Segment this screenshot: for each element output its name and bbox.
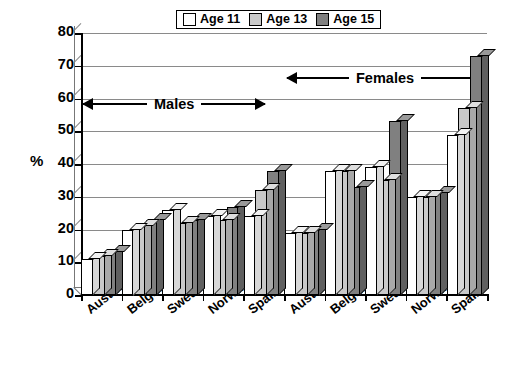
- y-axis-line: [81, 33, 83, 295]
- bar-front-face: [162, 210, 174, 295]
- bar-side-face: [319, 223, 326, 296]
- annotation-males: Males: [83, 95, 265, 113]
- bar-side-face: [360, 180, 367, 295]
- x-tick-mark: [162, 294, 164, 301]
- bar-side-face: [429, 190, 436, 295]
- arrow-left-females: [287, 77, 349, 79]
- annotation-label-females: Females: [349, 70, 421, 86]
- bar-side-face: [198, 213, 205, 295]
- y-tick-label: 10: [40, 253, 74, 268]
- bar-age-11-sweden-males: [162, 210, 174, 295]
- bar-side-face: [116, 245, 123, 295]
- bar-side-face: [174, 203, 181, 295]
- bar-side-face: [133, 223, 140, 296]
- y-tick-label: 30: [40, 188, 74, 203]
- arrow-left-males: [83, 103, 147, 105]
- y-tick-label: 60: [40, 90, 74, 105]
- y-tick-label: 20: [40, 221, 74, 236]
- gridline: [81, 66, 487, 67]
- bar-side-face: [296, 226, 303, 295]
- bar-age-11-austria-males: [81, 259, 93, 295]
- bar-side-face: [255, 209, 262, 295]
- bar-side-face: [308, 226, 315, 295]
- dark-gray-square-icon: [316, 13, 329, 26]
- bar-front-face: [122, 230, 134, 296]
- bar-side-face: [389, 173, 396, 295]
- bar-top-face: [234, 200, 253, 207]
- bar-side-face: [336, 164, 343, 295]
- bar-side-face: [401, 114, 408, 295]
- bar-chart: Age 11 Age 13 Age 15 % 80706050403020100…: [0, 0, 511, 368]
- arrow-head-right-icon: [255, 98, 266, 110]
- arrow-head-left-icon: [286, 72, 297, 84]
- light-gray-square-icon: [249, 13, 262, 26]
- legend-item-age-15: Age 15: [316, 13, 374, 26]
- x-tick-mark: [325, 294, 327, 301]
- legend-label-age-13: Age 13: [266, 13, 307, 26]
- gridline: [81, 33, 487, 34]
- y-tick-label: 50: [40, 122, 74, 137]
- bar-side-face: [417, 190, 424, 295]
- bar-age-11-belgium-males: [122, 230, 134, 296]
- bar-top-face: [169, 203, 188, 210]
- bar-side-face: [441, 186, 448, 295]
- bar-age-11-spain-males: [244, 216, 256, 295]
- bar-side-face: [186, 216, 193, 295]
- white-square-icon: [183, 13, 196, 26]
- arrow-head-left-icon: [82, 98, 93, 110]
- legend-item-age-13: Age 13: [249, 13, 307, 26]
- y-tick-label: 40: [40, 155, 74, 170]
- x-tick-mark: [122, 294, 124, 301]
- bar-side-face: [482, 49, 489, 295]
- legend-label-age-11: Age 11: [200, 13, 240, 26]
- bar-side-face: [377, 160, 384, 295]
- x-tick-mark: [81, 294, 83, 301]
- bar-side-face: [348, 164, 355, 295]
- bar-age-11-belgium-females: [325, 171, 337, 295]
- bar-side-face: [157, 213, 164, 295]
- bar-side-face: [226, 213, 233, 295]
- bar-side-face: [214, 209, 221, 295]
- bar-front-face: [447, 135, 459, 295]
- bar-front-face: [81, 259, 93, 295]
- x-tick-mark: [446, 294, 448, 301]
- legend-item-age-11: Age 11: [183, 13, 240, 26]
- y-tick-label: 70: [40, 57, 74, 72]
- bar-side-face: [267, 183, 274, 295]
- x-tick-mark: [203, 294, 205, 301]
- x-tick-mark: [365, 294, 367, 301]
- x-tick-mark: [487, 294, 489, 301]
- arrow-right-males: [201, 103, 265, 105]
- bar-front-face: [244, 216, 256, 295]
- bar-top-face: [477, 49, 496, 56]
- x-tick-mark: [243, 294, 245, 301]
- bar-front-face: [325, 171, 337, 295]
- bar-side-face: [145, 219, 152, 295]
- bar-top-face: [396, 114, 415, 121]
- chart-legend: Age 11 Age 13 Age 15: [176, 10, 381, 29]
- x-tick-mark: [406, 294, 408, 301]
- legend-label-age-15: Age 15: [333, 13, 374, 26]
- annotation-females: Females: [287, 69, 481, 87]
- bar-side-face: [458, 128, 465, 295]
- gridline: [81, 131, 487, 132]
- bar-side-face: [470, 101, 477, 295]
- x-tick-mark: [284, 294, 286, 301]
- y-tick-label: 80: [40, 24, 74, 39]
- annotation-label-males: Males: [147, 96, 201, 112]
- y-tick-label: 0: [40, 286, 74, 301]
- bar-age-11-spain-females: [447, 135, 459, 295]
